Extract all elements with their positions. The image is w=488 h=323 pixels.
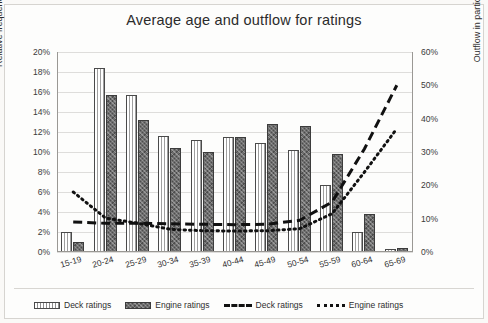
y-axis-left-tick-label: 10% bbox=[20, 147, 50, 157]
y-axis-right-label: Outflow in particular age group bbox=[472, 0, 482, 96]
legend-swatch-line-dashed-icon bbox=[224, 304, 252, 307]
legend-label: Deck ratings bbox=[256, 300, 303, 310]
line-series-engine bbox=[73, 129, 397, 231]
legend-swatch-line-dotted-icon bbox=[317, 304, 345, 307]
y-axis-left-tick-label: 8% bbox=[20, 167, 50, 177]
y-axis-right-tick-label: 50% bbox=[421, 80, 451, 90]
y-axis-left-tick-label: 14% bbox=[20, 107, 50, 117]
y-axis-right-tick-label: 0% bbox=[421, 247, 451, 257]
y-axis-right-tick-label: 60% bbox=[421, 47, 451, 57]
y-axis-left-label: Relative frequency of age bbox=[0, 0, 4, 96]
chart-page: Average age and outflow for ratings Rela… bbox=[0, 0, 488, 323]
chart-title: Average age and outflow for ratings bbox=[0, 12, 488, 28]
y-axis-right-tick-label: 10% bbox=[421, 214, 451, 224]
y-axis-left-tick-label: 12% bbox=[20, 127, 50, 137]
y-axis-right-line bbox=[412, 52, 413, 252]
legend-label: Engine ratings bbox=[155, 300, 209, 310]
chart-legend: Deck ratingsEngine ratingsDeck ratingsEn… bbox=[34, 296, 454, 314]
legend-label: Deck ratings bbox=[64, 300, 111, 310]
y-axis-left-tick-label: 6% bbox=[20, 187, 50, 197]
y-axis-left-tick-label: 18% bbox=[20, 67, 50, 77]
y-axis-left-tick-label: 4% bbox=[20, 207, 50, 217]
legend-item[interactable]: Deck ratings bbox=[34, 300, 111, 310]
y-axis-left-tick-label: 2% bbox=[20, 227, 50, 237]
legend-label: Engine ratings bbox=[349, 300, 403, 310]
legend-swatch-bar-dark-icon bbox=[125, 302, 151, 309]
gridline bbox=[57, 252, 413, 253]
plot-area bbox=[57, 52, 413, 252]
y-axis-right-tick-label: 20% bbox=[421, 180, 451, 190]
line-series-deck bbox=[73, 85, 397, 224]
y-axis-left-line bbox=[57, 52, 58, 252]
y-axis-right-tick-label: 40% bbox=[421, 114, 451, 124]
line-series-layer bbox=[57, 52, 413, 252]
y-axis-left-tick-label: 0% bbox=[20, 247, 50, 257]
legend-item[interactable]: Engine ratings bbox=[125, 300, 209, 310]
y-axis-left-tick-label: 20% bbox=[20, 47, 50, 57]
legend-divider bbox=[14, 288, 474, 289]
legend-item[interactable]: Deck ratings bbox=[224, 300, 303, 310]
y-axis-right-tick-label: 30% bbox=[421, 147, 451, 157]
y-axis-left-tick-label: 16% bbox=[20, 87, 50, 97]
x-axis-line bbox=[57, 251, 413, 252]
legend-swatch-bar-light-icon bbox=[34, 302, 60, 309]
legend-item[interactable]: Engine ratings bbox=[317, 300, 403, 310]
